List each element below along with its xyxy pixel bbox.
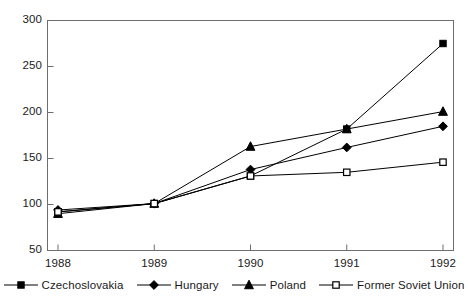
legend-key-filled-triangle-icon (232, 279, 266, 291)
data-point-open-square (440, 159, 446, 165)
series-czechoslovakia (55, 40, 446, 215)
legend-key-filled-diamond-icon (137, 279, 171, 291)
data-point-filled-diamond (149, 281, 158, 290)
data-point-filled-square (17, 282, 23, 288)
x-tick-label: 1992 (413, 257, 468, 269)
data-point-filled-triangle (439, 107, 448, 116)
legend-item[interactable]: Hungary (137, 279, 219, 291)
x-tick-label: 1988 (28, 257, 88, 269)
data-point-open-square (333, 282, 339, 288)
x-axis-ticks (58, 245, 443, 251)
series-poland (54, 107, 448, 218)
y-tick-label: 100 (2, 197, 42, 209)
legend-item[interactable]: Czechoslovakia (4, 279, 124, 291)
data-point-open-square (344, 169, 350, 175)
data-point-open-square (247, 173, 253, 179)
chart-legend: CzechoslovakiaHungaryPolandFormer Soviet… (0, 275, 468, 295)
y-tick-label: 250 (2, 59, 42, 71)
legend-label: Former Soviet Union (357, 279, 464, 291)
y-tick-label: 150 (2, 151, 42, 163)
series-line (58, 112, 443, 214)
data-point-open-square (55, 209, 61, 215)
y-axis-ticks (48, 21, 54, 251)
y-tick-label: 50 (2, 243, 42, 255)
data-point-filled-diamond (439, 122, 448, 131)
legend-label: Hungary (175, 279, 219, 291)
x-tick-label: 1990 (221, 257, 281, 269)
series-line (58, 44, 443, 212)
legend-key-filled-square-icon (4, 279, 38, 291)
x-tick-label: 1991 (317, 257, 377, 269)
x-tick-label: 1989 (124, 257, 184, 269)
series-group (54, 40, 448, 217)
legend-item[interactable]: Former Soviet Union (319, 279, 464, 291)
plot-frame (48, 21, 454, 251)
line-chart: 50100150200250300 19881989199019911992 C… (0, 0, 468, 302)
legend-label: Czechoslovakia (42, 279, 124, 291)
data-point-filled-diamond (342, 143, 351, 152)
y-tick-label: 200 (2, 105, 42, 117)
legend-key-open-square-icon (319, 279, 353, 291)
y-tick-label: 300 (2, 13, 42, 25)
data-point-open-square (151, 200, 157, 206)
data-point-filled-square (440, 40, 446, 46)
legend-item[interactable]: Poland (232, 279, 306, 291)
legend-label: Poland (270, 279, 306, 291)
